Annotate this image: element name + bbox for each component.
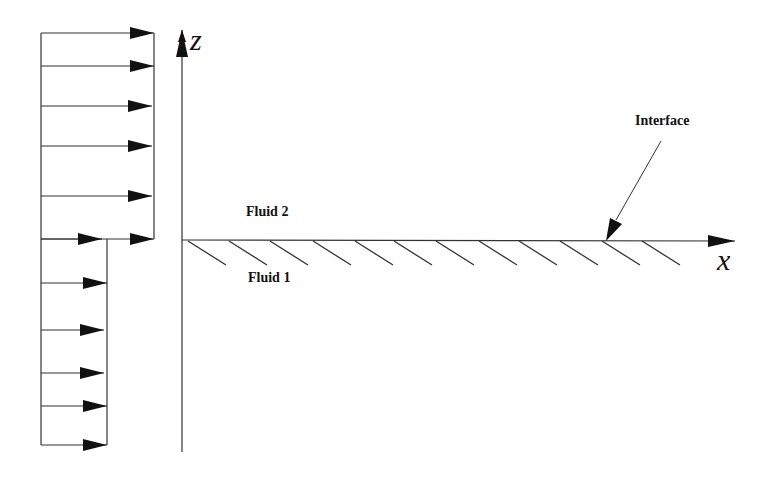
two-fluid-diagram: Fluid 2 Fluid 1 Interface x z (0, 0, 773, 482)
z-axis-arrowhead-icon (176, 30, 188, 57)
pointer-arrowhead-icon (606, 218, 622, 241)
x-axis (182, 240, 735, 241)
interface-pointer (606, 141, 661, 241)
z-axis-label: z (189, 23, 202, 56)
lower-velocity-arrows (41, 239, 107, 445)
velocity-profile (41, 33, 154, 445)
interface-label: Interface (635, 113, 689, 128)
fluid-1-label: Fluid 1 (248, 270, 290, 285)
interface-hatching (188, 241, 680, 265)
fluid-2-label: Fluid 2 (246, 204, 288, 219)
x-axis-label: x (716, 243, 731, 276)
upper-velocity-arrows (41, 33, 154, 239)
axes (176, 30, 735, 452)
